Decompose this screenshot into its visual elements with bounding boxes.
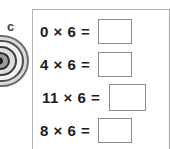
problem-row: 8 × 6 = [33,114,169,147]
problem-row: 0 × 6 = [33,15,169,48]
answer-input[interactable] [98,52,132,77]
answer-input[interactable] [109,84,146,111]
decorative-artwork: c [0,0,32,149]
answer-input[interactable] [98,19,132,44]
worksheet-panel: 0 × 6 = 4 × 6 = 11 × 6 = 8 × 6 = [32,9,170,149]
problem-row: 4 × 6 = [33,48,169,81]
problem-expression: 11 × 6 = [40,90,100,105]
problem-expression: 4 × 6 = [40,57,90,72]
partial-letter-c: c [7,20,14,34]
answer-input[interactable] [98,118,132,143]
spiral-shell-icon [0,33,30,89]
problem-list: 0 × 6 = 4 × 6 = 11 × 6 = 8 × 6 = [33,10,169,147]
problem-expression: 0 × 6 = [40,24,90,39]
problem-row: 11 × 6 = [33,81,169,114]
problem-expression: 8 × 6 = [40,123,90,138]
